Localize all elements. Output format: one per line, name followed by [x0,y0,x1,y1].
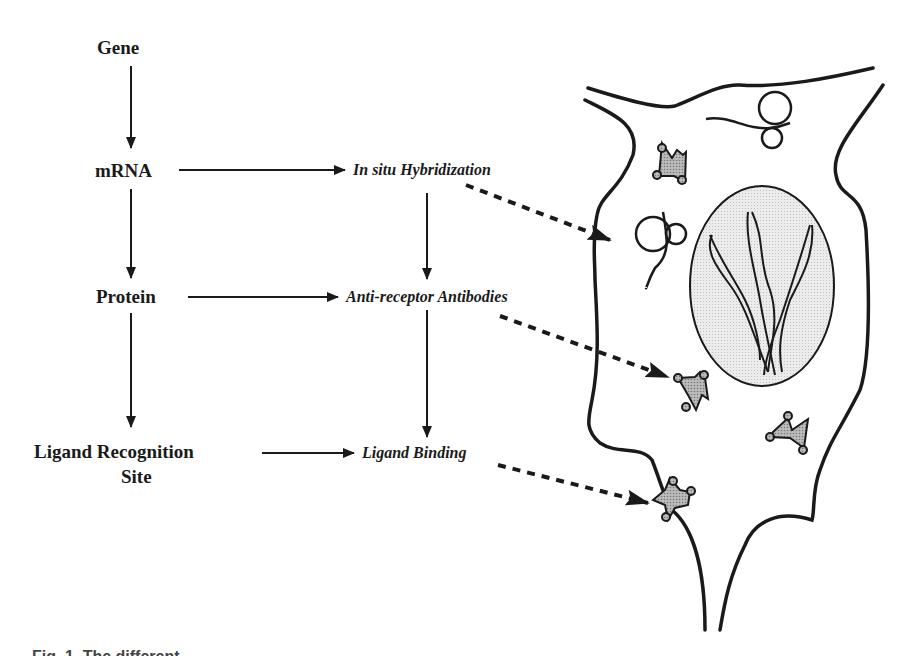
receptor-3 [766,412,808,454]
label-ligand-binding: Ligand Binding [362,444,466,462]
label-mrna: mRNA [95,160,152,182]
label-protein: Protein [96,286,156,308]
receptor-2 [674,371,708,411]
horizontal-arrows [179,170,354,453]
label-gene: Gene [97,37,139,59]
receptor-1 [653,143,686,184]
label-site: Site [121,466,152,488]
label-anti-receptor-antibodies: Anti-receptor Antibodies [346,288,508,306]
diagram-canvas [0,0,915,658]
label-in-situ-hybridization: In situ Hybridization [353,161,491,179]
dashed-arrows [466,185,668,503]
label-ligand-recognition: Ligand Recognition [34,441,194,463]
